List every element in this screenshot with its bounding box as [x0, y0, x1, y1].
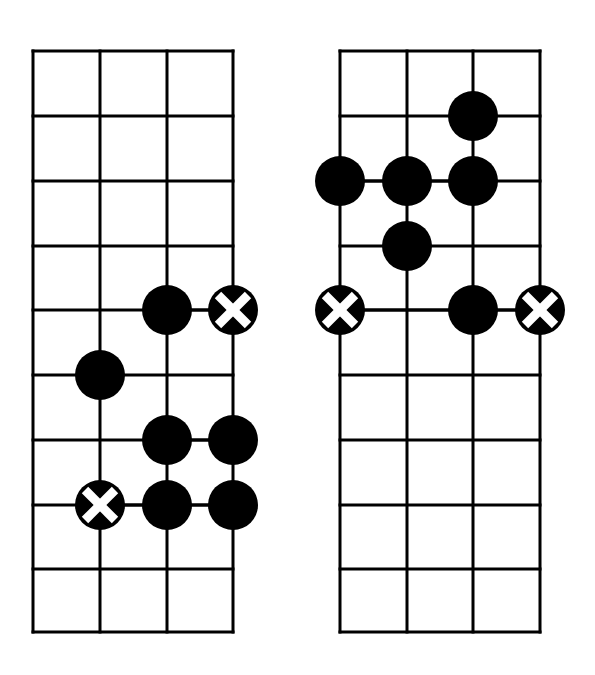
marker-disc-filled — [142, 285, 192, 335]
marker-cross[interactable] — [208, 285, 258, 335]
marker-filled[interactable] — [75, 350, 125, 400]
marker-disc-filled — [382, 156, 432, 206]
marker-filled[interactable] — [315, 156, 365, 206]
marker-cross[interactable] — [315, 285, 365, 335]
marker-filled[interactable] — [208, 480, 258, 530]
marker-disc-filled — [448, 156, 498, 206]
page-background — [0, 0, 595, 675]
marker-filled[interactable] — [448, 91, 498, 141]
marker-disc-filled — [208, 415, 258, 465]
marker-disc-filled — [315, 156, 365, 206]
marker-disc-filled — [75, 350, 125, 400]
marker-filled[interactable] — [448, 156, 498, 206]
marker-disc-filled — [382, 221, 432, 271]
marker-filled[interactable] — [208, 415, 258, 465]
marker-disc-filled — [142, 415, 192, 465]
marker-filled[interactable] — [382, 156, 432, 206]
marker-disc-filled — [208, 480, 258, 530]
marker-cross[interactable] — [75, 480, 125, 530]
marker-filled[interactable] — [142, 480, 192, 530]
marker-disc-filled — [142, 480, 192, 530]
marker-filled[interactable] — [382, 221, 432, 271]
fretboard-diagrams-svg — [0, 0, 595, 675]
marker-filled[interactable] — [142, 415, 192, 465]
marker-filled[interactable] — [142, 285, 192, 335]
marker-cross[interactable] — [515, 285, 565, 335]
diagram-canvas — [0, 0, 595, 675]
marker-filled[interactable] — [448, 285, 498, 335]
marker-disc-filled — [448, 285, 498, 335]
marker-disc-filled — [448, 91, 498, 141]
